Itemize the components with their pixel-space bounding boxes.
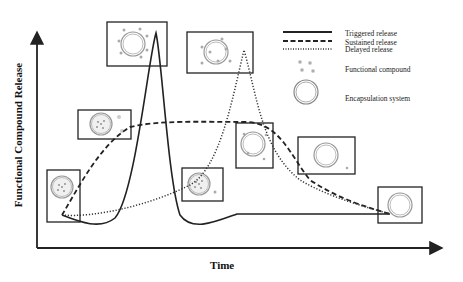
x-axis-label: Time: [210, 259, 234, 271]
y-axis-label: Functional Compound Release: [12, 63, 24, 207]
capsule-box-mid: [236, 123, 273, 168]
capsule-box-end: [378, 187, 422, 223]
capsule-box-late: [298, 137, 355, 174]
legend-encapsulation-icon: [294, 80, 318, 104]
legend-compound-icon: [298, 60, 315, 73]
legend-encapsulation-label: Encapsulation system: [345, 94, 410, 103]
capsule-box-delayed-peak: [187, 32, 253, 73]
legend-delayed-label: Delayed release: [345, 45, 393, 54]
capsule-box-sustained-early: [78, 110, 131, 139]
legend: [283, 32, 332, 104]
legend-compound-label: Functional compound: [345, 65, 411, 74]
legend-triggered-label: Triggered release: [345, 29, 397, 38]
